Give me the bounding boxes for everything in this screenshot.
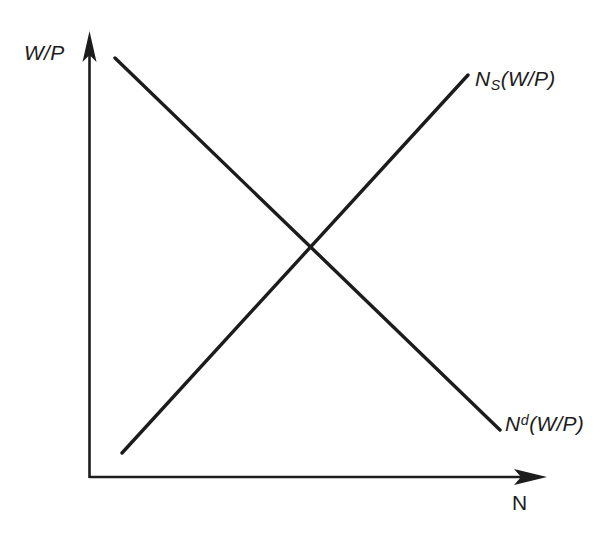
demand-label-base: N [505,412,520,435]
demand-curve-label: Nd(W/P) [505,413,584,434]
y-axis-label: W/P [24,42,65,63]
supply-label-subscript: S [490,77,500,93]
x-axis-label: N [512,492,527,513]
labour-market-diagram: W/P N NS(W/P) Nd(W/P) [0,0,599,534]
demand-label-superscript: d [520,412,529,428]
labour-demand-curve [115,58,500,430]
supply-label-base: N [475,67,490,90]
supply-curve-label: NS(W/P) [475,68,555,92]
demand-label-argument: (W/P) [529,412,584,435]
labour-supply-curve [122,75,468,453]
supply-label-argument: (W/P) [501,67,556,90]
